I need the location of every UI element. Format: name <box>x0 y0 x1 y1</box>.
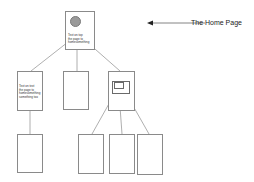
subsection-inner-box <box>114 82 124 89</box>
left-text-4: something too <box>19 96 38 99</box>
level2-middle-box <box>63 71 89 110</box>
level2-left-box: Text on text the page to homesomething s… <box>17 71 43 111</box>
home-page-box: Text on top the page to homesomething <box>65 11 95 50</box>
level3-box-4 <box>137 134 163 175</box>
level2-right-box <box>108 71 135 111</box>
logo-circle-icon <box>70 16 81 27</box>
home-text-3: homesomething <box>68 41 89 44</box>
home-page-annotation: The Home Page <box>191 19 242 26</box>
level3-box-2 <box>78 134 104 174</box>
level3-box-1 <box>17 134 43 173</box>
level3-box-3 <box>109 134 135 174</box>
arrow-head-icon <box>147 21 153 26</box>
